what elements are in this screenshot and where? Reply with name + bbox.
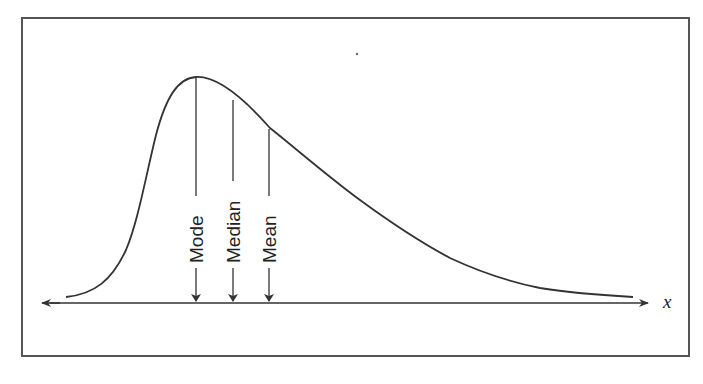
median-label: Median [224,201,243,263]
stray-dot [356,53,358,55]
mean-label: Mean [260,215,279,263]
distribution-curve [66,77,633,297]
mode-label: Mode [187,215,206,263]
skewed-distribution-plot [0,0,703,384]
x-axis-label: x [663,291,671,313]
